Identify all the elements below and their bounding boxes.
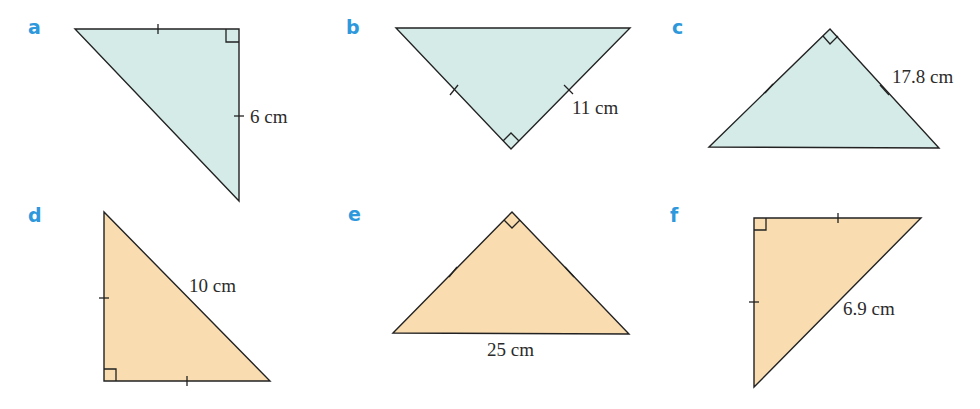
measurement-b: 11 cm <box>572 97 618 118</box>
measurement-f: 6.9 cm <box>843 298 895 319</box>
triangle-f: f 6.9 cm <box>670 204 921 387</box>
triangle-shape-a <box>75 29 239 201</box>
triangle-shape-c <box>709 29 939 148</box>
isosceles-right-triangles-figure: a 6 cm b 11 cm c 17.8 cm d 10 cm e <box>0 0 980 409</box>
triangle-b: b 11 cm <box>346 16 630 149</box>
measurement-c: 17.8 cm <box>892 66 953 87</box>
figure-label-e: e <box>348 203 361 225</box>
measurement-d: 10 cm <box>189 275 236 296</box>
figure-label-c: c <box>672 16 683 38</box>
triangle-a: a 6 cm <box>28 16 288 201</box>
figure-label-a: a <box>28 16 41 38</box>
triangle-e: e 25 cm <box>348 203 629 360</box>
triangle-d: d 10 cm <box>28 204 270 386</box>
figure-label-f: f <box>670 204 679 226</box>
triangle-shape-f <box>754 218 921 387</box>
triangle-c: c 17.8 cm <box>672 16 953 148</box>
triangle-shape-b <box>396 28 630 149</box>
triangle-shape-d <box>104 212 270 381</box>
measurement-a: 6 cm <box>250 106 288 127</box>
figure-label-b: b <box>346 16 360 38</box>
triangle-shape-e <box>393 212 629 334</box>
measurement-e: 25 cm <box>487 339 534 360</box>
figure-label-d: d <box>28 204 42 226</box>
